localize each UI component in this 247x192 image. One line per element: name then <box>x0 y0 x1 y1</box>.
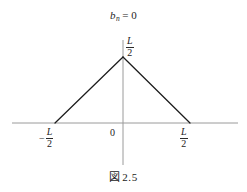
x-tick-label-right: L 2 <box>180 127 188 149</box>
fraction-denominator: 2 <box>126 48 134 58</box>
fraction-L-over-2: L 2 <box>126 36 134 58</box>
caption-number: 2.5 <box>122 171 138 183</box>
figure-container: bn=0 L 2 − L 2 0 L 2 <box>0 0 247 192</box>
plot-canvas <box>0 0 247 192</box>
fraction-numerator: L <box>126 36 134 46</box>
peak-value-label: L 2 <box>126 36 134 58</box>
fraction-denominator: 2 <box>180 139 188 149</box>
figure-caption: 図2.5 <box>0 168 247 184</box>
fraction-L-over-2: L 2 <box>180 127 188 149</box>
fraction-L-over-2: L 2 <box>46 127 54 149</box>
x-tick-label-left: − L 2 <box>39 127 53 149</box>
caption-kanji: 図 <box>109 171 120 184</box>
fraction-denominator: 2 <box>46 139 54 149</box>
fraction-numerator: L <box>180 127 188 137</box>
waveform-rising-edge <box>55 57 123 123</box>
minus-sign: − <box>39 133 45 144</box>
x-tick-label-origin: 0 <box>110 127 115 138</box>
waveform-falling-edge <box>123 57 190 123</box>
fraction-numerator: L <box>46 127 54 137</box>
